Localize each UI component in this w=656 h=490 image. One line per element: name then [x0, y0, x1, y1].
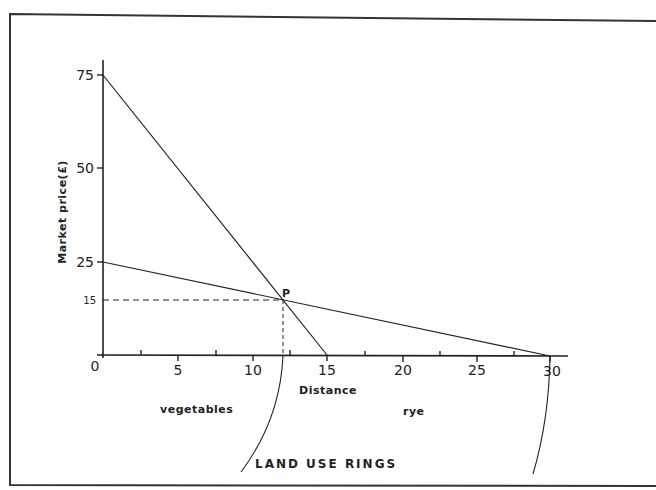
- x-tick-30: 30: [543, 363, 561, 379]
- ring-label-rye: rye: [403, 405, 425, 418]
- point-p-label: P: [282, 287, 291, 300]
- ring-label-vegetables: vegetables: [160, 403, 233, 416]
- rye-rent-line: [103, 262, 550, 356]
- y-ticks: [97, 75, 103, 262]
- x-axis-label: Distance: [299, 384, 357, 397]
- x-axis: [97, 355, 568, 356]
- y-tick-15: 15: [83, 295, 96, 306]
- chart-title: LAND USE RINGS: [255, 457, 397, 471]
- y-axis-label: Market price(£): [56, 160, 69, 264]
- x-tick-20: 20: [394, 362, 412, 378]
- x-tick-15: 15: [318, 362, 336, 378]
- x-tick-10: 10: [244, 362, 262, 378]
- figure-frame: [10, 14, 656, 486]
- y-tick-25: 25: [76, 254, 94, 270]
- y-tick-75: 75: [76, 67, 94, 83]
- vegetables-rent-line: [103, 75, 327, 355]
- x-tick-5: 5: [174, 362, 183, 378]
- land-use-rings-chart: 75 50 25 15 0 5 10 15 20 25 30 Market pr…: [0, 0, 656, 490]
- y-tick-50: 50: [76, 160, 94, 176]
- x-tick-0: 0: [91, 358, 100, 374]
- x-tick-25: 25: [468, 362, 486, 378]
